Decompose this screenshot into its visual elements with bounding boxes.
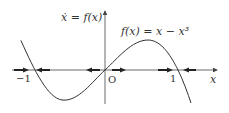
tick-label-one: 1 [170, 73, 176, 84]
phase-diagram: ẋ = f(x) f(x) = x − x³ −1 O 1 x [0, 0, 229, 113]
origin-label: O [108, 74, 116, 85]
tick-label-neg-one: −1 [16, 73, 31, 84]
x-axis-label: x [210, 73, 217, 86]
y-axis-label: ẋ = f(x) [61, 11, 102, 24]
function-label: f(x) = x − x³ [120, 25, 189, 38]
function-curve [21, 40, 191, 103]
